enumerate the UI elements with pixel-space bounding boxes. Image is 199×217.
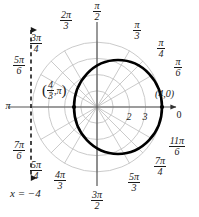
angle-3pi-2-denominator: 2 [91, 201, 103, 211]
angle-0-text: 0 [177, 109, 182, 120]
point-4over3-pi-radius: 43 [47, 80, 54, 101]
angle-label-0: 0 [173, 110, 185, 120]
angle-label-pi-3: π 3 [126, 20, 148, 41]
angle-3pi-4-denominator: 4 [30, 44, 42, 54]
point-4-0-close-paren: ) [171, 89, 174, 99]
angle-label-pi: π [1, 101, 15, 111]
angle-pi-6-denominator: 6 [174, 68, 181, 78]
angle-label-11pi-6: 11π 6 [162, 136, 192, 157]
angle-label-pi-4: π 4 [150, 38, 172, 59]
point-label-4-0: (4, 0) [155, 88, 197, 99]
angle-label-5pi-3: 5π 3 [122, 172, 146, 193]
angle-label-pi-2: π 2 [85, 1, 109, 22]
angle-pi-3-denominator: 3 [133, 31, 140, 41]
angle-label-2pi-3: 2π 3 [54, 10, 78, 31]
angle-pi-text: π [5, 100, 10, 111]
angle-label-5pi-6: 5π 6 [7, 55, 31, 76]
radial-tick-3-text: 3 [143, 111, 148, 122]
angle-2pi-3-denominator: 3 [60, 21, 72, 31]
angle-11pi-6-denominator: 6 [169, 147, 185, 157]
point-4over3-pi-radius-denominator: 3 [47, 91, 54, 101]
angle-label-3pi-4: 3π 4 [24, 33, 48, 54]
angle-pi-4-denominator: 4 [157, 49, 164, 59]
angle-pi-2-denominator: 2 [93, 12, 100, 22]
polar-graph-figure: π 2 2π 3 3π 4 5π 6 π 7π 6 5π 4 [0, 0, 199, 217]
angle-label-7pi-4: 7π 4 [148, 156, 172, 177]
angle-label-3pi-2: 3π 2 [85, 190, 109, 211]
angle-label-5pi-4: 5π 4 [24, 160, 48, 181]
directrix-equation-label: x = −4 [10, 188, 70, 199]
radial-tick-2-text: 2 [127, 111, 132, 122]
angle-5pi-4-denominator: 4 [30, 171, 42, 181]
radial-tick-2: 2 [124, 112, 134, 122]
directrix-equation-text: x = −4 [10, 187, 41, 199]
radial-tick-3: 3 [140, 112, 150, 122]
angle-label-7pi-6: 7π 6 [7, 140, 31, 161]
angle-7pi-4-denominator: 4 [154, 167, 166, 177]
angle-label-pi-6: π 6 [167, 57, 189, 78]
point-label-4over3-pi: (43, π) [42, 80, 96, 101]
angle-5pi-3-denominator: 3 [128, 183, 140, 193]
point-4over3-pi-close-paren: ) [62, 83, 67, 98]
angle-5pi-6-denominator: 6 [13, 66, 25, 76]
